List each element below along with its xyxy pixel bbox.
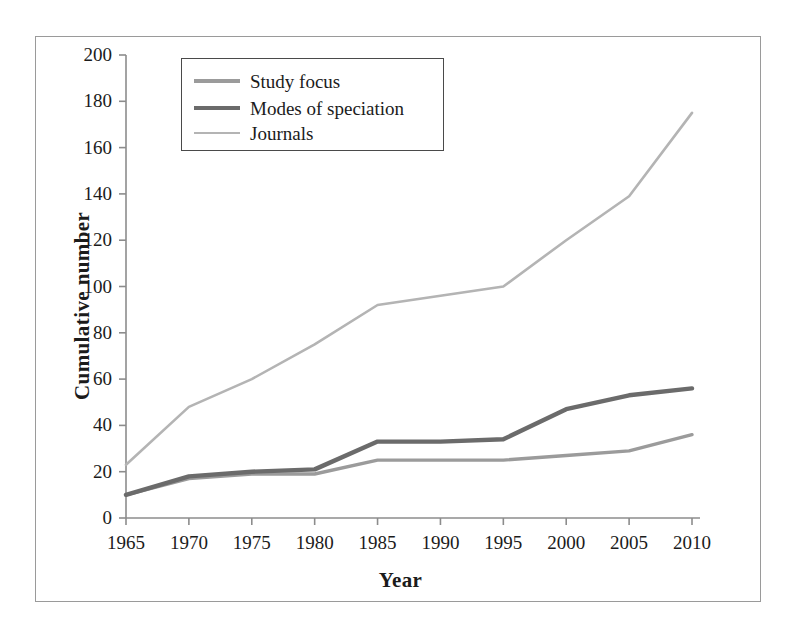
- x-axis-tick-label: 1995: [484, 532, 522, 554]
- legend-item: Journals: [194, 120, 313, 146]
- x-axis-tick-label: 1975: [233, 532, 271, 554]
- x-axis-title: Year: [0, 568, 801, 593]
- x-axis-tick-label: 1990: [421, 532, 459, 554]
- y-axis-tick-label: 200: [60, 44, 112, 66]
- y-axis-tick-label: 180: [60, 90, 112, 112]
- x-axis-tick-label: 1970: [170, 532, 208, 554]
- x-axis-tick-label: 2005: [610, 532, 648, 554]
- y-axis-tick-label: 160: [60, 137, 112, 159]
- chart-figure: 020406080100120140160180200 196519701975…: [0, 0, 801, 641]
- legend-swatch-line-icon: [194, 79, 240, 82]
- legend-item-label: Study focus: [250, 72, 340, 91]
- x-axis-tick-label: 1985: [359, 532, 397, 554]
- legend-swatch-line-icon: [194, 132, 240, 135]
- x-axis-tick-label: 2000: [547, 532, 585, 554]
- x-axis-tick-label: 2010: [673, 532, 711, 554]
- data-line-modes-of-speciation: [126, 388, 692, 494]
- y-axis-tick-label: 140: [60, 183, 112, 205]
- y-axis-tick-label: 20: [60, 461, 112, 483]
- y-axis-ticks: [119, 55, 126, 518]
- x-axis-tick-label: 1965: [107, 532, 145, 554]
- data-series-group: [126, 113, 692, 495]
- y-axis-tick-label: 40: [60, 414, 112, 436]
- legend-swatch-line-icon: [194, 106, 240, 110]
- x-axis-tick-label: 1980: [296, 532, 334, 554]
- chart-legend: Study focusModes of speciationJournals: [181, 58, 444, 151]
- legend-item-label: Modes of speciation: [250, 99, 404, 118]
- legend-item-label: Journals: [250, 124, 313, 143]
- legend-item: Modes of speciation: [194, 95, 404, 121]
- x-axis-ticks: [126, 518, 692, 525]
- y-axis-tick-label: 0: [60, 507, 112, 529]
- y-axis-title: Cumulative number: [70, 212, 95, 400]
- data-line-journals: [126, 113, 692, 465]
- legend-item: Study focus: [194, 68, 340, 94]
